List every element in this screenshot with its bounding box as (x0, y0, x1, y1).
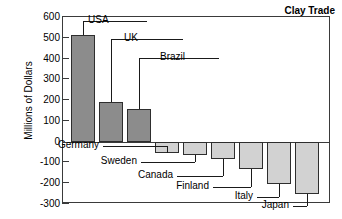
bar-label-japan: Japan (262, 199, 289, 210)
leader-line-horizontal-finland (213, 187, 251, 188)
y-axis-tick-mark (62, 58, 69, 59)
leader-line-horizontal-uk (111, 39, 183, 40)
plot-area (62, 16, 330, 203)
bar-italy (267, 142, 291, 185)
leader-line-horizontal-italy (257, 197, 279, 198)
y-axis-tick-label: 200 (24, 94, 60, 105)
y-axis-tick-mark (62, 182, 69, 183)
y-axis-tick-label: -300 (24, 198, 60, 209)
bar-label-brazil: Brazil (160, 51, 185, 62)
leader-line-vertical-italy (279, 184, 280, 197)
y-axis-tick-mark (62, 37, 69, 38)
bar-canada (211, 142, 235, 160)
leader-line-vertical-usa (83, 21, 84, 35)
y-axis-tick-mark (62, 16, 69, 17)
leader-line-vertical-japan (307, 194, 308, 206)
bar-label-italy: Italy (235, 190, 253, 201)
y-axis-tick-mark (62, 99, 69, 100)
bar-label-finland: Finland (176, 180, 209, 191)
leader-line-vertical-germany (167, 146, 168, 153)
y-axis-tick-label: -200 (24, 177, 60, 188)
y-axis-tick-mark (62, 203, 69, 204)
y-axis-tick-label: 300 (24, 73, 60, 84)
leader-line-horizontal-japan (293, 206, 307, 207)
bar-finland (239, 142, 263, 170)
bar-uk (99, 102, 123, 141)
bar-brazil (127, 109, 151, 141)
bar-label-usa: USA (88, 14, 109, 25)
y-axis-tick-label: 600 (24, 11, 60, 22)
bar-label-uk: UK (124, 32, 138, 43)
leader-line-vertical-canada (223, 159, 224, 176)
bar-label-sweden: Sweden (101, 155, 137, 166)
chart-title: Clay Trade (284, 5, 335, 16)
leader-line-vertical-uk (111, 39, 112, 102)
y-axis-tick-label: 500 (24, 31, 60, 42)
bar-usa (71, 35, 95, 142)
bar-japan (295, 142, 319, 194)
clay-trade-bar-chart: Millions of Dollars 6005004003002001000-… (0, 0, 342, 219)
y-axis-tick-mark (62, 120, 69, 121)
y-axis-tick-label: 0 (24, 135, 60, 146)
y-axis-tick-mark (62, 161, 69, 162)
bar-label-canada: Canada (138, 169, 173, 180)
leader-line-vertical-finland (251, 169, 252, 187)
y-axis-tick-label: 100 (24, 114, 60, 125)
leader-line-horizontal-germany (103, 146, 167, 147)
bar-label-germany: Germany (58, 139, 99, 150)
y-axis-tick-labels: 6005004003002001000-100-200-300 (20, 0, 60, 219)
leader-line-vertical-sweden (195, 155, 196, 162)
bar-sweden (183, 142, 207, 156)
leader-line-horizontal-sweden (141, 162, 195, 163)
y-axis-tick-mark (62, 78, 69, 79)
y-axis-tick-label: -100 (24, 156, 60, 167)
leader-line-vertical-brazil (139, 58, 140, 109)
leader-line-horizontal-canada (177, 176, 223, 177)
y-axis-tick-label: 400 (24, 52, 60, 63)
